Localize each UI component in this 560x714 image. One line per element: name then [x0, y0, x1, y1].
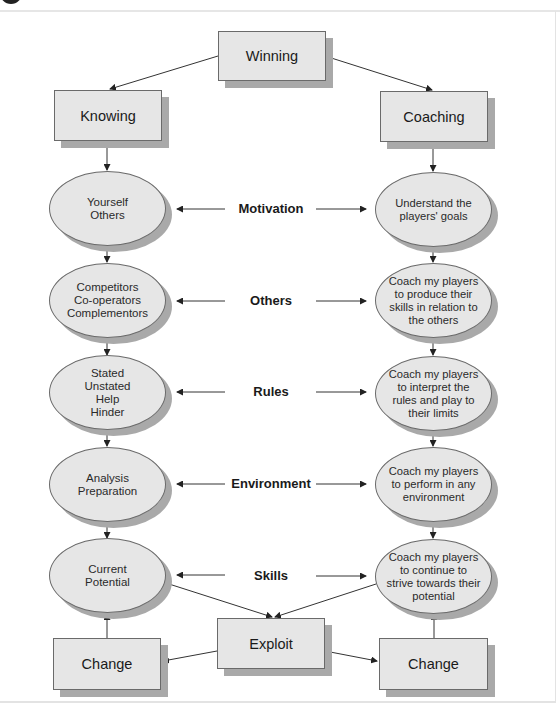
node-left-rules: Stated Unstated Help Hinder: [49, 355, 166, 430]
node-right-skills: Coach my players to continue to strive t…: [375, 539, 492, 614]
node-change-left-label: Change: [82, 656, 133, 672]
node-left-environment: Analysis Preparation: [49, 447, 166, 522]
node-change-left: Change: [53, 638, 161, 690]
node-right-motivation-text: Understand the players' goals: [395, 197, 472, 223]
node-right-skills-text: Coach my players to continue to strive t…: [387, 551, 481, 603]
node-coaching-label: Coaching: [403, 109, 464, 125]
node-exploit-label: Exploit: [249, 636, 293, 652]
node-right-rules: Coach my players to interpret the rules …: [375, 356, 492, 431]
row-label-environment: Environment: [206, 476, 336, 491]
row-label-skills: Skills: [206, 568, 336, 583]
row-label-rules: Rules: [206, 384, 336, 399]
node-right-motivation: Understand the players' goals: [375, 172, 492, 247]
node-left-environment-text: Analysis Preparation: [78, 472, 137, 498]
node-left-skills: Current Potential: [49, 538, 166, 613]
row-label-motivation: Motivation: [206, 201, 336, 216]
row-label-others: Others: [206, 293, 336, 308]
node-left-skills-text: Current Potential: [85, 563, 130, 589]
node-left-others-text: Competitors Co-operators Complementors: [67, 281, 148, 320]
node-left-motivation-text: Yourself Others: [87, 196, 128, 222]
node-right-environment-text: Coach my players to perform in any envir…: [389, 465, 479, 504]
node-left-rules-text: Stated Unstated Help Hinder: [84, 367, 130, 419]
node-left-motivation: Yourself Others: [49, 171, 166, 246]
node-exploit: Exploit: [217, 618, 325, 669]
node-knowing: Knowing: [54, 90, 162, 141]
node-right-environment: Coach my players to perform in any envir…: [375, 447, 492, 522]
node-change-right-label: Change: [408, 656, 459, 672]
node-change-right: Change: [379, 638, 488, 690]
node-right-rules-text: Coach my players to interpret the rules …: [389, 368, 479, 420]
node-right-others-text: Coach my players to produce their skills…: [389, 275, 479, 327]
node-left-others: Competitors Co-operators Complementors: [49, 263, 166, 338]
node-right-others: Coach my players to produce their skills…: [375, 263, 492, 338]
node-winning: Winning: [218, 31, 326, 81]
node-coaching: Coaching: [380, 91, 488, 142]
node-winning-label: Winning: [246, 48, 298, 64]
node-knowing-label: Knowing: [80, 108, 136, 124]
